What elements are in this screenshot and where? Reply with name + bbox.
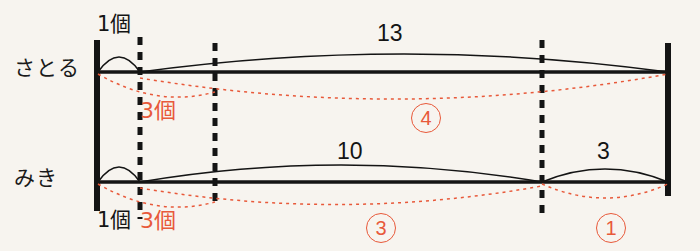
miki-red-count-1-badge: 1 [596,213,626,243]
miki-one-unit-label: 1個 [97,210,131,231]
satoru-three-unit-arc-red [98,74,215,97]
diagram-canvas: さとる みき 13 10 3 1個 1個 3個 3個 4 3 1 [0,0,700,251]
row-label-miki: みき [14,168,58,189]
miki-three-unit-label: 3個 [140,210,176,232]
miki-main-label: 10 [337,140,363,163]
miki-red-count-3-badge: 3 [366,213,396,243]
miki-main-arc-10 [140,165,542,182]
miki-one-unit-arc [98,167,140,182]
miki-tail-label: 3 [597,140,610,163]
satoru-red-arc-4 [140,74,668,99]
satoru-one-unit-arc [98,57,140,72]
right-end-bar [665,43,671,196]
satoru-total-label: 13 [377,22,403,45]
miki-red-arc-1 [542,184,668,198]
satoru-three-unit-label: 3個 [140,100,176,122]
satoru-one-unit-label: 1個 [97,14,131,35]
row-label-satoru: さとる [14,58,80,79]
miki-red-arc-3 [140,186,542,205]
miki-tail-arc-3 [542,169,668,182]
satoru-total-arc-13 [140,54,668,72]
satoru-red-count-badge: 4 [411,103,441,133]
